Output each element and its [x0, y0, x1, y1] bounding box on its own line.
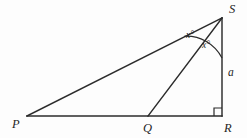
angle-label-qsr: x° — [202, 41, 210, 51]
vertex-label-q: Q — [143, 122, 152, 135]
geometry-figure: S P Q R x° x° a — [0, 0, 247, 138]
side-label-a: a — [228, 67, 234, 79]
vertex-label-r: R — [224, 122, 232, 135]
right-angle-marker-at-r — [214, 108, 222, 116]
segment-s-q — [148, 18, 222, 116]
vertex-label-s: S — [229, 3, 235, 16]
angle-label-psq: x° — [186, 31, 194, 41]
vertex-label-p: P — [12, 118, 20, 131]
figure-canvas — [0, 0, 247, 138]
